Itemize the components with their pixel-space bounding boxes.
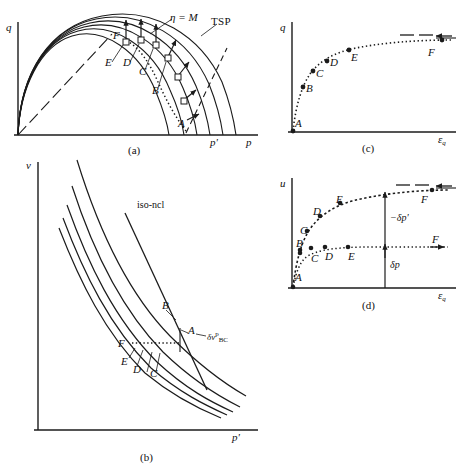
panel-b-x-axis-label: p': [232, 432, 240, 443]
panel-b-label-C: C: [150, 368, 157, 379]
delta-v-subscript: BC: [219, 336, 228, 344]
panel-b-iso-ncl-label: iso-ncl: [137, 200, 164, 210]
panel-c-y-axis-label: q: [280, 22, 286, 33]
panel-c-points: [291, 38, 445, 134]
panel-b-label-A: A: [188, 325, 195, 336]
panel-c-label-B: B: [306, 83, 313, 94]
panel-b-caption: (b): [140, 452, 153, 463]
panel-d-lower-label-E: E: [348, 251, 355, 262]
panel-c-label-F: F: [428, 47, 435, 58]
panel-d-lower-point-D: [323, 245, 328, 250]
panel-c-point-C: [311, 69, 316, 74]
panel-d-upper-points: [291, 188, 435, 290]
panel-c-x-axis-label: εq: [438, 134, 446, 147]
panel-a-label-A: A: [178, 118, 185, 129]
panel-a-label-F: F: [113, 30, 120, 41]
panel-d-upper-point-F: [430, 188, 435, 193]
panel-d-lower-point-E: [346, 245, 351, 250]
delta-v-symbol: δv: [207, 332, 215, 342]
panel-a-label-D: D: [123, 57, 131, 68]
panel-b-label-E: E: [121, 356, 128, 367]
panel-d-label-C: C: [300, 225, 307, 236]
panel-d-delta-p-label: δp: [390, 260, 400, 270]
panel-a-label-E: E: [105, 57, 112, 68]
panel-d-label-B: B: [296, 238, 303, 249]
panel-c-label-D: D: [330, 57, 338, 68]
epsilon-subscript-d: q: [442, 295, 446, 303]
figure-canvas: [0, 0, 468, 476]
panel-a-eta-equals-M-label: η = M: [170, 12, 198, 23]
panel-c-caption: (c): [362, 143, 374, 154]
panel-b-label-F: F: [118, 338, 125, 349]
panel-d-lower-point-C: [309, 246, 314, 251]
panel-c-label-A: A: [295, 118, 302, 129]
panel-c-point-A: [291, 129, 296, 134]
panel-a-x-axis-label-p: p: [246, 137, 252, 148]
panel-a-x-axis-label-p-prime: p': [210, 137, 218, 148]
panel-a-tsp-label: TSP: [211, 16, 231, 27]
panel-a-label-C: C: [139, 66, 146, 77]
panel-d-caption: (d): [362, 300, 375, 311]
epsilon-subscript-c: q: [442, 139, 446, 147]
panel-a-y-axis-label: q: [6, 22, 12, 33]
panel-d: [288, 178, 456, 289]
panel-d-label-D: D: [313, 206, 321, 217]
panel-a: [14, 14, 258, 135]
panel-c: [288, 22, 456, 133]
panel-d-lower-label-F: F: [432, 234, 439, 245]
panel-c-label-E: E: [351, 52, 358, 63]
panel-c-f-arrow: [400, 35, 456, 38]
panel-c-point-B: [301, 85, 306, 90]
panel-b-delta-v-plastic-label: δvpBC: [207, 331, 228, 344]
panel-a-caption: (a): [128, 145, 140, 156]
panel-d-lower-label-C: C: [311, 253, 318, 264]
panel-c-label-C: C: [316, 68, 323, 79]
panel-a-csl-line: [18, 34, 112, 135]
panel-d-label-A: A: [295, 272, 302, 283]
panel-d-label-E: E: [336, 194, 343, 205]
panel-d-lower-label-D: D: [325, 251, 333, 262]
panel-a-yield-loci: [18, 14, 236, 135]
panel-b-label-D: D: [133, 364, 141, 375]
panel-d-lower-point-B: [298, 251, 303, 256]
panel-d-x-axis-label: εq: [438, 290, 446, 303]
panel-d-y-axis-label: u: [280, 178, 286, 189]
panel-a-label-B: B: [152, 85, 159, 96]
panel-b-y-axis-label: v: [26, 160, 31, 171]
panel-d-minus-delta-p-prime-label: −δp': [390, 213, 409, 223]
panel-d-upper-point-A: [291, 285, 296, 290]
panel-d-label-F-upper: F: [421, 194, 428, 205]
panel-c-point-D: [325, 59, 330, 64]
panel-b-label-B: B: [162, 300, 169, 311]
